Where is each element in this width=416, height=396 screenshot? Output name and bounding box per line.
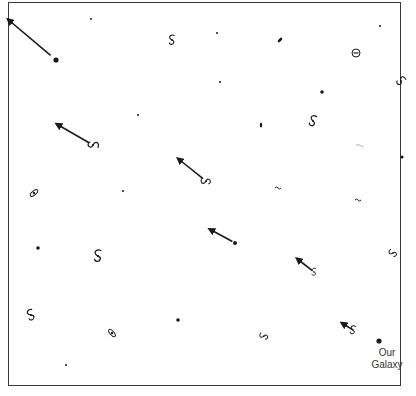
galaxy-speck bbox=[137, 114, 139, 116]
our-galaxy-label-line2: Galaxy bbox=[363, 359, 411, 371]
our-galaxy-label-line1: Our bbox=[363, 347, 411, 359]
galaxy-speck bbox=[379, 25, 381, 27]
our-galaxy-label: Our Galaxy bbox=[363, 347, 411, 371]
galaxy-ring bbox=[352, 49, 360, 57]
velocity-arrow-icon bbox=[11, 22, 51, 55]
galaxy-edge bbox=[260, 122, 262, 127]
galaxy-small bbox=[355, 199, 361, 201]
galaxy-speck bbox=[219, 81, 221, 83]
recession-arrows bbox=[11, 22, 352, 329]
galaxy-spiral bbox=[201, 179, 210, 184]
galaxy-dot bbox=[176, 318, 180, 322]
galaxy-spiral bbox=[388, 249, 397, 257]
galaxy-dot bbox=[400, 155, 403, 158]
galaxies bbox=[26, 18, 406, 366]
galaxy-spiral bbox=[309, 115, 317, 126]
galaxy-dot bbox=[233, 241, 237, 245]
galaxy-spiral bbox=[350, 325, 356, 334]
galaxy-spiral bbox=[312, 268, 316, 275]
galaxy-field bbox=[0, 0, 416, 396]
our-galaxy-dot bbox=[376, 338, 381, 343]
galaxy-speck bbox=[122, 190, 124, 192]
galaxy-spiral bbox=[88, 142, 98, 148]
galaxy-dot bbox=[53, 57, 58, 62]
galaxy-ellipse bbox=[29, 189, 38, 198]
galaxy-spiral bbox=[95, 250, 101, 261]
velocity-arrow-icon bbox=[60, 126, 89, 143]
galaxy-spiral bbox=[259, 333, 268, 340]
galaxy-dot bbox=[36, 246, 40, 250]
galaxy-ellipse bbox=[108, 328, 117, 337]
galaxy-spiral bbox=[26, 309, 35, 321]
galaxy-elongated bbox=[277, 37, 283, 43]
galaxy-spiral bbox=[396, 76, 406, 86]
galaxy-speck bbox=[90, 18, 92, 20]
velocity-arrow-icon bbox=[181, 161, 203, 179]
velocity-arrow-icon bbox=[213, 231, 232, 242]
galaxy-spiral bbox=[169, 35, 174, 44]
galaxy-small bbox=[275, 187, 281, 189]
velocity-arrow-icon bbox=[300, 261, 312, 271]
galaxy-speck bbox=[216, 32, 218, 34]
galaxy-speck bbox=[65, 364, 67, 366]
galaxy-dot bbox=[320, 90, 324, 94]
galaxy-faint bbox=[356, 145, 363, 147]
